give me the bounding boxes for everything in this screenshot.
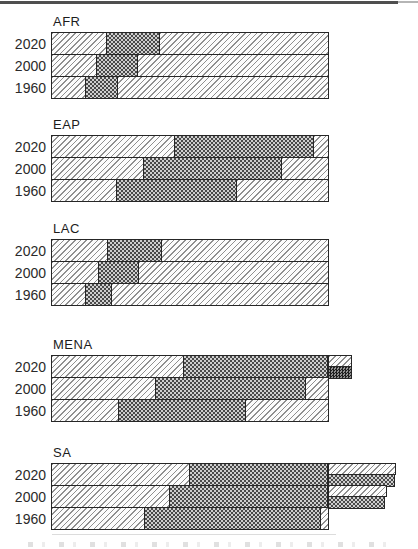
footer-hairline xyxy=(52,534,336,535)
year-label: 2000 xyxy=(15,265,52,281)
year-label: 2000 xyxy=(15,58,52,74)
year-label: 1960 xyxy=(15,80,52,96)
region-block-mena: 202020001960 xyxy=(51,355,329,422)
region-label-eap: EAP xyxy=(53,118,81,132)
bar-segment-light xyxy=(112,284,328,305)
bar-segment-light xyxy=(52,77,85,98)
bar-segment-dark xyxy=(98,262,139,283)
year-label: 2000 xyxy=(15,489,52,505)
region-label-afr: AFR xyxy=(53,15,81,29)
bar-row: 2020 xyxy=(51,463,329,486)
bar-row: 2000 xyxy=(51,485,329,508)
bar-segment-dark xyxy=(85,77,119,98)
bar-segment-dark xyxy=(155,378,306,399)
bar-segment-light xyxy=(282,158,328,179)
bar-segment-light xyxy=(52,180,116,201)
bar-segment-light xyxy=(162,240,328,261)
region-block-eap: 202020001960 xyxy=(51,135,329,202)
year-label: 1960 xyxy=(15,403,52,419)
bar-segment-light xyxy=(237,180,328,201)
bar-segment-light xyxy=(321,508,328,529)
bar-row: 2000 xyxy=(51,377,329,400)
top-rule-tail xyxy=(398,1,418,3)
bar-segment-light xyxy=(314,136,328,157)
figure-canvas: AFR202020001960EAP202020001960LAC2020200… xyxy=(0,0,418,549)
bar-segment-light xyxy=(52,158,143,179)
year-label: 2000 xyxy=(15,161,52,177)
year-label: 2020 xyxy=(15,139,52,155)
bar-row: 2020 xyxy=(51,239,329,262)
bar-segment-darkest-overflow-bottom xyxy=(328,366,352,379)
bar-segment-dark xyxy=(183,356,328,377)
year-label: 2020 xyxy=(15,243,52,259)
bar-segment-light xyxy=(139,262,328,283)
bar-segment-light xyxy=(52,356,183,377)
year-label: 2020 xyxy=(15,36,52,52)
bar-segment-light xyxy=(52,33,106,54)
bar-segment-dark xyxy=(106,33,160,54)
bar-row: 1960 xyxy=(51,179,329,202)
bar-segment-light xyxy=(52,400,118,421)
bar-segment-light xyxy=(306,378,328,399)
bar-segment-dark xyxy=(96,55,139,76)
region-label-sa: SA xyxy=(53,446,71,460)
region-label-lac: LAC xyxy=(53,222,80,236)
bar-segment-light xyxy=(52,284,85,305)
bar-segment-dark xyxy=(169,486,328,507)
bar-segment-light xyxy=(118,77,328,98)
bar-row: 2000 xyxy=(51,54,329,77)
region-block-lac: 202020001960 xyxy=(51,239,329,306)
region-block-afr: 202020001960 xyxy=(51,32,329,99)
bar-row: 1960 xyxy=(51,76,329,99)
year-label: 1960 xyxy=(15,511,52,527)
bar-segment-dark xyxy=(107,240,161,261)
bar-segment-dark xyxy=(144,508,321,529)
bar-segment-light xyxy=(138,55,328,76)
bar-segment-light xyxy=(52,136,174,157)
bar-segment-dark xyxy=(174,136,314,157)
bar-row: 2020 xyxy=(51,135,329,158)
bar-row: 2020 xyxy=(51,355,329,378)
bar-segment-light xyxy=(52,486,169,507)
bar-row: 2000 xyxy=(51,261,329,284)
bar-segment-dark xyxy=(118,400,246,421)
bar-row: 1960 xyxy=(51,507,329,530)
bar-segment-dark-overflow-bottom xyxy=(328,496,385,509)
bar-segment-light xyxy=(246,400,328,421)
bar-segment-dark xyxy=(143,158,282,179)
bar-segment-light xyxy=(160,33,328,54)
year-label: 1960 xyxy=(15,183,52,199)
top-rule xyxy=(0,1,398,4)
bar-row: 1960 xyxy=(51,399,329,422)
year-label: 1960 xyxy=(15,287,52,303)
bar-segment-light xyxy=(52,240,107,261)
bar-row: 2020 xyxy=(51,32,329,55)
cropped-caption-remnant xyxy=(28,542,400,547)
region-label-mena: MENA xyxy=(53,338,93,352)
bar-segment-dark xyxy=(116,180,237,201)
bar-segment-dark xyxy=(85,284,113,305)
bar-row: 2000 xyxy=(51,157,329,180)
region-block-sa: 202020001960 xyxy=(51,463,329,530)
bar-segment-dark xyxy=(189,464,328,485)
year-label: 2020 xyxy=(15,467,52,483)
year-label: 2020 xyxy=(15,359,52,375)
bar-row: 1960 xyxy=(51,283,329,306)
year-label: 2000 xyxy=(15,381,52,397)
bar-segment-light xyxy=(52,262,98,283)
bar-segment-light xyxy=(52,464,189,485)
bar-segment-light xyxy=(52,508,144,529)
bar-segment-light xyxy=(52,55,96,76)
bar-segment-light xyxy=(52,378,155,399)
